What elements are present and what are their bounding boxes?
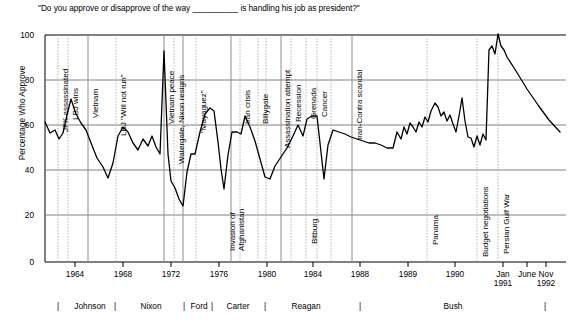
- pres-separator-5: |: [264, 301, 266, 311]
- pres-label-reagan: Reagan: [284, 301, 328, 311]
- event-label-lbj-will-not-run: LBJ "Will not run": [119, 74, 128, 136]
- x-tick-1980: 1980: [249, 270, 285, 279]
- event-label-bitburg: Bitburg: [310, 219, 319, 244]
- x-tick-1964: 1964: [57, 270, 93, 279]
- event-label-invasion-of: Invasion of: [228, 212, 237, 251]
- x-tick-1989: 1989: [390, 270, 426, 279]
- event-label-billygate: Billygate: [261, 94, 270, 124]
- event-label-grenada: Grenada: [309, 88, 318, 119]
- pres-separator-6: |: [359, 301, 361, 311]
- event-label-iran-crisis: Iran crisis: [243, 90, 252, 124]
- pres-separator-2: |: [114, 301, 116, 311]
- x-tick-1968: 1968: [105, 270, 141, 279]
- x-tick-1990: 1990: [437, 270, 473, 279]
- event-label-recession: Recession: [294, 85, 303, 122]
- event-label-watergate-nixon: Watergate, Nixon resigns: [177, 75, 186, 164]
- pres-separator-4: |: [211, 301, 213, 311]
- pres-separator-7: |: [544, 301, 546, 311]
- event-label-iran-contra: Iran-Contra scandal: [355, 70, 364, 140]
- approval-rating-chart: "Do you approve or disapprove of the way…: [0, 0, 574, 330]
- x-tick-1972: 1972: [153, 270, 189, 279]
- event-label-assassination: Assassination attempt: [283, 70, 292, 148]
- pres-separator-1: |: [57, 301, 59, 311]
- pres-label-johnson: Johnson: [67, 301, 113, 311]
- x-tick-nov-sub: 1992: [537, 278, 555, 288]
- pres-label-ford: Ford: [187, 301, 211, 311]
- x-tick-1984: 1984: [295, 270, 331, 279]
- pres-separator-3: |: [183, 301, 185, 311]
- x-tick-1976: 1976: [201, 270, 237, 279]
- event-label-vietnam-peace: Vietnam peace: [167, 71, 176, 124]
- event-label-lbj-wins: LBJ wins: [71, 88, 80, 120]
- event-label-persian-gulf-war: Persian Gulf War: [502, 193, 511, 254]
- pres-label-carter: Carter: [218, 301, 258, 311]
- event-label-vietnam: Vietnam: [91, 89, 100, 118]
- event-label-mayaguez: "Mayaguez": [199, 90, 208, 133]
- x-tick-1988: 1988: [342, 270, 378, 279]
- pres-label-bush: Bush: [435, 301, 471, 311]
- event-label-afghanistan: Afghanistan: [237, 209, 246, 251]
- pres-label-nixon: Nixon: [125, 301, 177, 311]
- event-label-jfk-assassinated: JFK assassinated: [61, 69, 70, 132]
- event-label-budget-negotiations: Budget negotiations: [481, 186, 490, 257]
- event-label-cancer: Cancer: [320, 91, 329, 117]
- x-tick-jan-sub: 1991: [494, 278, 512, 288]
- event-label-panama: Panama: [431, 215, 440, 245]
- x-tick-nov-1992: Nov 1992: [530, 270, 562, 289]
